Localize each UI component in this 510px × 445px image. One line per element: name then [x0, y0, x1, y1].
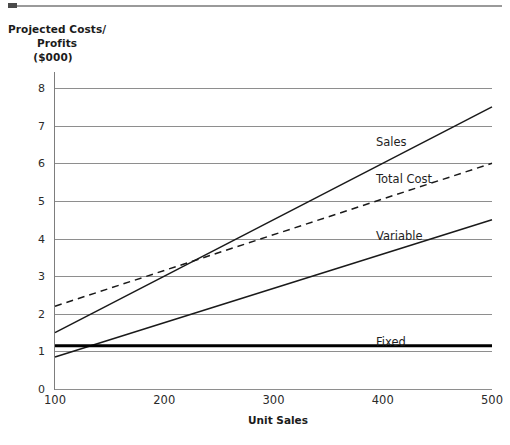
y-tick-label-8: 8 [5, 82, 45, 95]
header-rule [8, 5, 502, 7]
y-tick-label-7: 7 [5, 119, 45, 132]
x-tick-label-500: 500 [462, 393, 510, 407]
y-axis-title-line-2: Profits [8, 36, 128, 50]
y-tick-label-1: 1 [5, 345, 45, 358]
plot-area [55, 88, 492, 389]
x-tick-label-200: 200 [134, 393, 194, 407]
header-rule-cap [8, 3, 17, 8]
y-tick-label-3: 3 [5, 270, 45, 283]
series-label-fixed: Fixed [376, 335, 406, 349]
y-axis-title: Projected Costs/ Profits ($000) [8, 22, 128, 64]
x-tick-label-100: 100 [25, 393, 85, 407]
y-tick-label-6: 6 [5, 157, 45, 170]
y-tick-label-4: 4 [5, 232, 45, 245]
y-tick-label-5: 5 [5, 194, 45, 207]
y-axis-title-line-1: Projected Costs/ [8, 22, 128, 36]
series-lines [55, 88, 492, 389]
series-line-sales [55, 107, 492, 333]
series-line-variable [55, 220, 492, 357]
gridline-0 [55, 389, 492, 390]
series-label-total-cost: Total Cost [376, 172, 432, 186]
series-label-variable: Variable [376, 229, 423, 243]
y-axis-title-line-3: ($000) [8, 50, 128, 64]
x-axis-title: Unit Sales [0, 414, 510, 426]
series-label-sales: Sales [376, 135, 407, 149]
x-tick-label-400: 400 [353, 393, 413, 407]
x-tick-label-300: 300 [244, 393, 304, 407]
y-tick-label-2: 2 [5, 307, 45, 320]
